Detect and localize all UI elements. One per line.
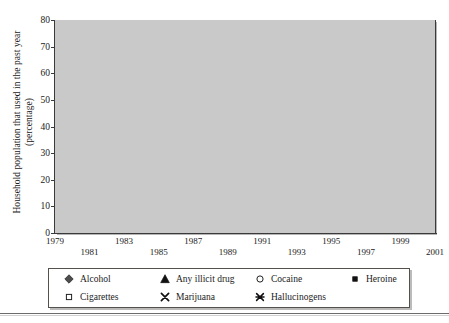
triangle-filled-icon — [159, 273, 171, 285]
x-tick-label: 1991 — [253, 236, 271, 246]
legend-item-label: Cocaine — [271, 274, 302, 284]
x-tick-label: 1987 — [184, 236, 202, 246]
legend-item-hallucinogens[interactable]: Hallucinogens — [254, 291, 326, 303]
x-cross-icon — [159, 291, 171, 303]
legend-item-label: Any illicit drug — [176, 274, 235, 284]
asterisk-cross-icon — [254, 291, 266, 303]
y-tick-label: 30 — [41, 148, 51, 158]
legend-item-label: Marijuana — [176, 292, 215, 302]
square-filled-icon — [353, 277, 358, 282]
y-axis-label: Household population that used in the pa… — [11, 12, 35, 232]
legend-item-any-illicit-drug[interactable]: Any illicit drug — [159, 273, 235, 285]
x-tick-label: 1983 — [115, 236, 133, 246]
diamond-filled-icon — [63, 273, 75, 285]
x-tick-label: 1999 — [391, 236, 409, 246]
square-filled-icon — [349, 273, 361, 285]
chart-legend: AlcoholAny illicit drugCocaineHeroine Ci… — [48, 268, 410, 308]
y-tick-label: 50 — [41, 95, 51, 105]
plot-background — [55, 20, 435, 233]
x-tick-label: 1997 — [357, 247, 375, 257]
y-axis-label-line1: Household population that used in the pa… — [12, 30, 22, 213]
circle-open-icon — [257, 276, 263, 282]
square-open-icon — [63, 291, 75, 303]
y-axis-line — [54, 20, 55, 233]
x-axis-line — [54, 233, 437, 234]
circle-open-icon — [254, 273, 266, 285]
legend-item-alcohol[interactable]: Alcohol — [63, 273, 111, 285]
footer-rule-secondary — [0, 315, 449, 316]
footer-rule — [0, 313, 449, 314]
legend-item-cocaine[interactable]: Cocaine — [254, 273, 302, 285]
legend-item-label: Alcohol — [80, 274, 111, 284]
legend-item-label: Heroine — [366, 274, 397, 284]
plot-right-edge — [435, 20, 436, 234]
y-tick-label: 80 — [41, 15, 51, 25]
x-tick-label: 1981 — [81, 247, 99, 257]
legend-item-cigarettes[interactable]: Cigarettes — [63, 291, 119, 303]
y-tick-label: 40 — [41, 122, 51, 132]
legend-item-heroine[interactable]: Heroine — [349, 273, 397, 285]
y-axis-label-line2: (percentage) — [23, 12, 35, 232]
legend-row-1: AlcoholAny illicit drugCocaineHeroine — [49, 270, 409, 289]
y-tick-label: 60 — [41, 68, 51, 78]
asterisk-cross-icon — [256, 294, 264, 301]
y-tick-label: 70 — [41, 42, 51, 52]
x-tick-label: 1993 — [288, 247, 306, 257]
x-tick-label: 1979 — [46, 236, 64, 246]
plot-area — [55, 20, 435, 233]
x-tick-label: 1989 — [219, 247, 237, 257]
legend-item-label: Hallucinogens — [271, 292, 326, 302]
chart-figure: Household population that used in the pa… — [0, 0, 449, 323]
x-tick-label: 1985 — [150, 247, 168, 257]
diamond-filled-icon — [65, 275, 73, 283]
legend-item-marijuana[interactable]: Marijuana — [159, 291, 215, 303]
triangle-filled-icon — [161, 275, 170, 283]
y-tick-label: 20 — [41, 175, 51, 185]
x-tick-label: 2001 — [426, 247, 444, 257]
y-tick-label: 10 — [41, 201, 51, 211]
x-tick-label: 1995 — [322, 236, 340, 246]
square-open-icon — [66, 294, 71, 299]
x-cross-icon — [161, 293, 168, 300]
legend-item-label: Cigarettes — [80, 292, 119, 302]
legend-row-2: CigarettesMarijuanaHallucinogens — [49, 288, 409, 307]
